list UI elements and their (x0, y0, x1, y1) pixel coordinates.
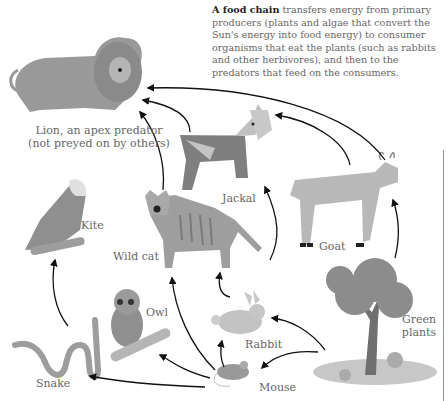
arrow-plants-mouse (262, 352, 318, 368)
food-chain-diagram: A food chain transfers energy from prima… (0, 0, 448, 401)
label-green-plants: Green plants (397, 313, 441, 339)
label-owl: Owl (146, 306, 168, 319)
label-goat: Goat (319, 240, 345, 253)
kite-illustration (25, 179, 86, 256)
arrow-rabbit-wildcat (219, 273, 230, 297)
label-wildcat: Wild cat (113, 250, 159, 263)
arrow-plants-goat (393, 200, 399, 258)
arrow-mouse-rabbit (221, 341, 224, 367)
label-lion: Lion, an apex predator (not preyed on by… (28, 124, 170, 150)
arrow-mouse-owl (160, 355, 210, 378)
goat-illustration (290, 153, 398, 247)
jackal-illustration (180, 104, 272, 190)
mouse-illustration (214, 361, 249, 386)
label-snake: Snake (36, 377, 70, 390)
arrow-mouse-snake (90, 376, 205, 387)
rabbit-illustration (211, 290, 265, 334)
lion-illustration (11, 37, 142, 112)
label-mouse: Mouse (259, 381, 296, 394)
arrow-snake-kite (53, 260, 68, 326)
arrow-mouse-jackal (265, 187, 277, 260)
label-jackal: Jackal (222, 192, 256, 205)
label-kite: Kite (81, 219, 104, 232)
right-border-line (443, 150, 444, 401)
arrow-mouse-wildcat (172, 278, 215, 370)
label-rabbit: Rabbit (245, 338, 282, 351)
snake-illustration (15, 320, 98, 377)
owl-illustration (109, 289, 172, 363)
